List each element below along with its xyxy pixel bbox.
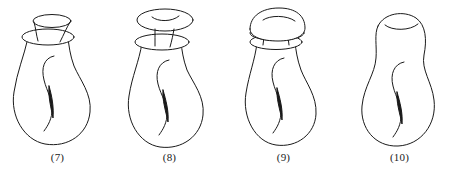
lid-disc-cap bbox=[137, 9, 193, 31]
figure-plate: (7) (8) bbox=[0, 0, 461, 183]
vessel-body-outline bbox=[245, 43, 316, 145]
figure-9-drawing bbox=[226, 0, 341, 160]
figure-8-drawing bbox=[112, 0, 227, 160]
figure-7-drawing bbox=[0, 0, 115, 160]
figure-8-caption: (8) bbox=[112, 150, 227, 164]
figure-8: (8) bbox=[112, 0, 227, 183]
figure-7-caption: (7) bbox=[0, 150, 115, 164]
collar-rim bbox=[22, 29, 74, 45]
figure-10-drawing bbox=[342, 0, 457, 160]
lid-dome-cap bbox=[250, 8, 305, 41]
figure-7: (7) bbox=[0, 0, 115, 183]
vessel-body-outline bbox=[128, 43, 203, 147]
vessel-body-outline bbox=[13, 38, 90, 145]
figure-9: (9) bbox=[226, 0, 341, 183]
lid-cap-rim bbox=[33, 15, 71, 28]
figure-9-caption: (9) bbox=[226, 150, 341, 164]
figure-10-caption: (10) bbox=[342, 150, 457, 164]
vessel-body-outline bbox=[362, 14, 435, 146]
collar-rim bbox=[135, 34, 189, 50]
figure-10: (10) bbox=[342, 0, 457, 183]
